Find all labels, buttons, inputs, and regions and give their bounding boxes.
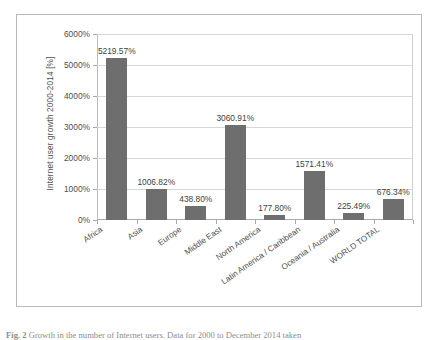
bar-slot: 3060.91% [216, 34, 256, 220]
bar-value-label: 438.80% [179, 194, 212, 204]
bar-value-label: 5219.57% [98, 46, 136, 56]
bar-slot: 1571.41% [295, 34, 335, 220]
x-axis-category-label: Africa [82, 225, 104, 244]
bar-slot: 438.80% [176, 34, 216, 220]
bar [146, 189, 167, 220]
x-axis-label-slot: WORLD TOTAL [374, 221, 414, 307]
figure-caption-label: Fig. 2 [6, 330, 27, 340]
x-axis-tick-mark [413, 220, 414, 224]
bar-slot: 177.80% [255, 34, 295, 220]
bar-value-label: 177.80% [258, 203, 291, 213]
y-axis-tick-label: 6000% [30, 29, 90, 39]
bar-slot: 225.49% [334, 34, 374, 220]
bar-series: 5219.57%1006.82%438.80%3060.91%177.80%15… [97, 34, 413, 220]
bar [264, 215, 285, 221]
bar-value-label: 1006.82% [137, 177, 175, 187]
y-axis-tick-label: 2000% [30, 153, 90, 163]
bar-value-label: 225.49% [337, 201, 370, 211]
bar [225, 125, 246, 220]
y-axis-tick-label: 0% [30, 215, 90, 225]
figure-caption-text: Growth in the number of Internet users. … [29, 330, 302, 340]
bar [106, 58, 127, 220]
bar [304, 171, 325, 220]
bar-slot: 5219.57% [97, 34, 137, 220]
bar-value-label: 3060.91% [216, 113, 254, 123]
bar-value-label: 1571.41% [295, 159, 333, 169]
bar-value-label: 676.34% [377, 187, 410, 197]
y-axis-tick-label: 3000% [30, 122, 90, 132]
chart-figure-frame: Internet user growth 2000-2014 [%] 6000%… [16, 14, 422, 307]
y-axis-tick-label: 1000% [30, 184, 90, 194]
figure-caption: Fig. 2 Growth in the number of Internet … [6, 330, 427, 340]
y-axis-tick-label: 5000% [30, 60, 90, 70]
x-axis-category-labels: AfricaAsiaEuropeMiddle EastNorth America… [97, 221, 413, 307]
bar-slot: 676.34% [374, 34, 414, 220]
bar [185, 206, 206, 220]
bar-slot: 1006.82% [137, 34, 177, 220]
bar [343, 213, 364, 220]
y-axis-tick-label: 4000% [30, 91, 90, 101]
plot-area: 6000%5000%4000%3000%2000%1000%0% 5219.57… [97, 34, 413, 220]
bar [383, 199, 404, 220]
